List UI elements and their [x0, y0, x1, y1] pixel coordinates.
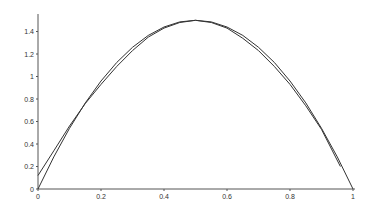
y-tick-label: 1.4	[24, 28, 34, 35]
x-tick-label: 1	[351, 193, 355, 200]
y-tick-label: 0.2	[24, 163, 34, 170]
y-tick-label: 0.6	[24, 118, 34, 125]
x-tick-label: 0.6	[222, 193, 232, 200]
y-tick-label: 0.4	[24, 141, 34, 148]
series-layer	[38, 20, 353, 189]
series-approximation-line	[38, 20, 340, 175]
x-tick-label: 0.2	[96, 193, 106, 200]
y-tick-label: 1	[30, 73, 34, 80]
x-tick-label: 0.4	[159, 193, 169, 200]
axes: 00.20.40.60.811.21.400.20.40.60.81	[24, 14, 355, 200]
y-tick-label: 0.8	[24, 96, 34, 103]
y-tick-label: 0	[30, 186, 34, 193]
x-tick-label: 0.8	[285, 193, 295, 200]
y-tick-label: 1.2	[24, 51, 34, 58]
x-tick-label: 0	[36, 193, 40, 200]
series-exact-line	[38, 20, 353, 189]
line-chart: 00.20.40.60.811.21.400.20.40.60.81	[0, 0, 373, 206]
